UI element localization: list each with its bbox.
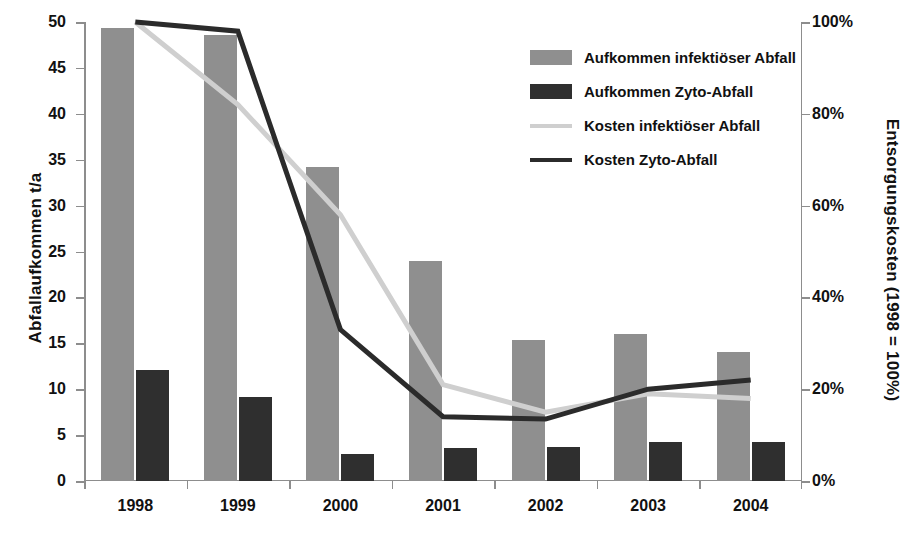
legend-item-label: Kosten Zyto-Abfall (584, 151, 717, 168)
legend-item[interactable]: Kosten infektiöser Abfall (530, 112, 820, 139)
x-tick-label: 2003 (597, 497, 700, 515)
y-tick-mark-left (76, 206, 84, 208)
y-tick-label-right: 0% (812, 473, 835, 489)
y-tick-label-left: 25 (48, 244, 66, 260)
x-tick-label: 2004 (699, 497, 802, 515)
y-axis-left-tick-labels: 05101520253035404550 (18, 0, 66, 540)
x-tick-mark (597, 481, 599, 489)
y-tick-mark-left (76, 343, 84, 345)
y-tick-label-left: 30 (48, 198, 66, 214)
x-tick-mark (392, 481, 394, 489)
legend-item[interactable]: Aufkommen Zyto-Abfall (530, 78, 820, 105)
x-tick-label: 1998 (84, 497, 187, 515)
y-tick-mark-right (802, 22, 810, 24)
x-axis-tick-labels: 1998199920002001200220032004 (84, 497, 802, 531)
y-tick-mark-left (76, 389, 84, 391)
y-tick-label-right: 100% (812, 14, 853, 30)
legend-item[interactable]: Aufkommen infektiöser Abfall (530, 44, 820, 71)
y-tick-mark-left (76, 481, 84, 483)
x-tick-mark (699, 481, 701, 489)
y-tick-mark-left (76, 68, 84, 70)
x-tick-mark (494, 481, 496, 489)
chart-legend: Aufkommen infektiöser AbfallAufkommen Zy… (530, 44, 820, 180)
y-tick-mark-right (802, 389, 810, 391)
y-tick-label-right: 60% (812, 198, 844, 214)
legend-swatch-line-zyto-icon (530, 158, 572, 162)
x-tick-label: 1999 (187, 497, 290, 515)
y-tick-mark-right (802, 206, 810, 208)
x-tick-mark (289, 481, 291, 489)
legend-item-label: Aufkommen Zyto-Abfall (584, 83, 753, 100)
legend-item-label: Kosten infektiöser Abfall (584, 117, 760, 134)
y-tick-label-left: 40 (48, 106, 66, 122)
y-tick-label-left: 5 (57, 427, 66, 443)
y-tick-label-right: 40% (812, 289, 844, 305)
y-tick-mark-left (76, 160, 84, 162)
x-tick-mark (801, 481, 803, 489)
x-tick-label: 2001 (392, 497, 495, 515)
y-tick-label-left: 10 (48, 381, 66, 397)
y-tick-label-left: 50 (48, 14, 66, 30)
y-tick-mark-left (76, 297, 84, 299)
y-axis-right-tick-labels: 0%20%40%60%80%100% (812, 0, 874, 540)
y-tick-label-left: 0 (57, 473, 66, 489)
x-tick-mark (187, 481, 189, 489)
y-tick-mark-right (802, 481, 810, 483)
y-tick-label-left: 35 (48, 152, 66, 168)
x-tick-label: 2000 (289, 497, 392, 515)
y-tick-mark-left (76, 22, 84, 24)
legend-swatch-bar-infect-icon (530, 50, 572, 65)
y-tick-mark-right (802, 297, 810, 299)
y-tick-label-left: 15 (48, 335, 66, 351)
y-tick-label-left: 20 (48, 289, 66, 305)
y-tick-mark-left (76, 435, 84, 437)
y-tick-mark-left (76, 252, 84, 254)
y-tick-label-left: 45 (48, 60, 66, 76)
legend-swatch-line-infect-icon (530, 124, 572, 128)
y-tick-label-right: 20% (812, 381, 844, 397)
legend-item[interactable]: Kosten Zyto-Abfall (530, 146, 820, 173)
legend-swatch-bar-zyto-icon (530, 84, 572, 99)
y-axis-right-title: Entsorgungskosten (1998 = 100%) (882, 110, 902, 410)
y-tick-mark-left (76, 114, 84, 116)
x-tick-mark (84, 481, 86, 489)
x-tick-label: 2002 (494, 497, 597, 515)
legend-item-label: Aufkommen infektiöser Abfall (584, 49, 796, 66)
